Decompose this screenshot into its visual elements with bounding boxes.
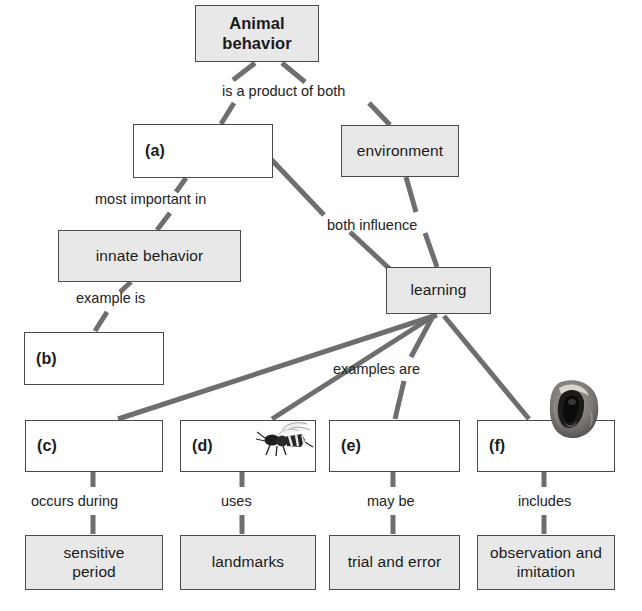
node-c[interactable]: (c) (25, 420, 163, 472)
node-label-observation-and-imitation: observation and imitation (490, 544, 602, 581)
link-label-uses: uses (221, 494, 252, 510)
node-label-trial-and-error: trial and error (348, 553, 442, 572)
connector-both-influence-to-learning-right (425, 233, 437, 267)
link-label-includes: includes (518, 494, 571, 510)
node-animal-behavior[interactable]: Animal behavior (195, 5, 319, 62)
node-innate-behavior[interactable]: innate behavior (58, 230, 241, 282)
node-label-c: (c) (37, 436, 57, 455)
node-label-landmarks: landmarks (212, 553, 284, 572)
node-label-a: (a) (145, 141, 165, 160)
connector-animal-behavior-to-a-upper (233, 63, 255, 80)
connector-example-is-to-b (95, 312, 107, 331)
connector-animal-behavior-to-environment-upper (282, 63, 305, 82)
connector-a-to-most-important-in (176, 178, 186, 192)
node-landmarks[interactable]: landmarks (180, 535, 316, 590)
connector-both-influence-to-learning-left (350, 232, 393, 272)
node-learning[interactable]: learning (386, 267, 491, 314)
node-b[interactable]: (b) (24, 332, 164, 385)
node-sensitive-period[interactable]: sensitive period (25, 535, 163, 590)
concept-map-canvas: Animal behavior(a)environmentinnate beha… (0, 0, 642, 611)
node-environment[interactable]: environment (341, 125, 459, 177)
node-label-e: (e) (341, 436, 361, 455)
node-trial-and-error[interactable]: trial and error (329, 535, 460, 590)
connector-learning-to-examples-are (411, 316, 433, 357)
connector-most-important-in-to-innate (157, 213, 170, 230)
connector-examples-are-to-e (395, 381, 404, 419)
node-label-animal-behavior: Animal behavior (222, 14, 292, 54)
link-label-occurs-during: occurs during (31, 494, 118, 510)
node-label-innate-behavior: innate behavior (96, 247, 204, 266)
node-e[interactable]: (e) (329, 420, 460, 472)
node-label-b: (b) (36, 349, 57, 368)
link-label-may-be: may be (367, 494, 415, 510)
node-a[interactable]: (a) (133, 124, 273, 178)
node-observation-and-imitation[interactable]: observation and imitation (477, 535, 615, 590)
connector-learning-to-f (444, 316, 529, 419)
link-label-examples-are: examples are (333, 362, 420, 378)
node-label-f: (f) (489, 436, 505, 455)
node-f[interactable]: (f) (477, 420, 615, 472)
link-label-example-is: example is (76, 291, 145, 307)
connector-is-a-product-of-both-to-a (221, 103, 234, 124)
connector-is-a-product-of-both-to-environment (369, 103, 390, 125)
node-label-environment: environment (357, 142, 443, 161)
link-label-most-important-in: most important in (95, 192, 206, 208)
link-label-both-influence: both influence (327, 218, 417, 234)
link-label-is-a-product-of-both: is a product of both (222, 84, 345, 100)
connector-a-to-both-influence (268, 156, 324, 215)
node-label-sensitive-period: sensitive period (63, 544, 124, 581)
node-label-d: (d) (192, 436, 213, 455)
connector-environment-to-both-influence (406, 177, 416, 212)
node-label-learning: learning (411, 281, 467, 300)
node-d[interactable]: (d) (180, 420, 316, 472)
